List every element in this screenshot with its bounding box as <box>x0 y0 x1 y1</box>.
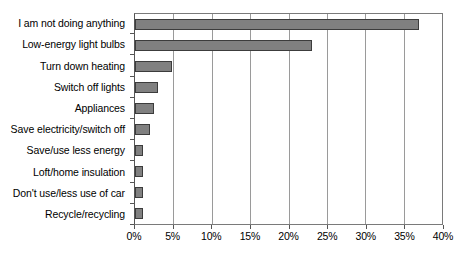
x-axis-tick <box>211 225 212 229</box>
x-axis-tick-label: 25% <box>317 230 337 242</box>
bar-row <box>135 14 442 35</box>
x-axis-tick-label: 0% <box>127 230 142 242</box>
bar <box>135 61 172 72</box>
category-label: Appliances <box>0 98 130 119</box>
bar-chart: I am not doing anythingLow-energy light … <box>0 0 464 263</box>
bar-series <box>135 14 442 224</box>
plot-area <box>134 13 443 225</box>
category-label: Turn down heating <box>0 55 130 76</box>
category-label: Switch off lights <box>0 77 130 98</box>
x-axis-tick <box>289 225 290 229</box>
category-label: Loft/home insulation <box>0 161 130 182</box>
x-axis-tick <box>250 225 251 229</box>
category-label: I am not doing anything <box>0 13 130 34</box>
category-axis-labels: I am not doing anythingLow-energy light … <box>0 13 130 225</box>
x-axis-tick <box>173 225 174 229</box>
x-axis-tick-label: 5% <box>165 230 180 242</box>
bar-row <box>135 77 442 98</box>
category-label: Don't use/less use of car <box>0 183 130 204</box>
bar-row <box>135 119 442 140</box>
category-label: Save/use less energy <box>0 140 130 161</box>
bar-row <box>135 98 442 119</box>
x-axis-tick-label: 40% <box>433 230 453 242</box>
bar-row <box>135 140 442 161</box>
bar <box>135 208 143 219</box>
bar <box>135 103 154 114</box>
x-axis-tick <box>366 225 367 229</box>
bar <box>135 187 143 198</box>
x-axis-tick-label: 35% <box>394 230 414 242</box>
bar-row <box>135 203 442 224</box>
bar-row <box>135 161 442 182</box>
x-axis-tick <box>134 225 135 229</box>
x-axis-labels: 0%5%10%15%20%25%30%35%40% <box>134 230 443 246</box>
bar-row <box>135 35 442 56</box>
bar-row <box>135 56 442 77</box>
bar <box>135 19 419 30</box>
x-axis-tick <box>443 225 444 229</box>
bar <box>135 124 150 135</box>
category-label: Save electricity/switch off <box>0 119 130 140</box>
x-axis-tick-label: 30% <box>356 230 376 242</box>
bar <box>135 166 143 177</box>
bar <box>135 145 143 156</box>
bar-row <box>135 182 442 203</box>
bar <box>135 40 312 51</box>
x-axis-tick-label: 10% <box>201 230 221 242</box>
x-axis-tick <box>404 225 405 229</box>
x-axis-tick-label: 20% <box>278 230 298 242</box>
category-label: Recycle/recycling <box>0 204 130 225</box>
category-label: Low-energy light bulbs <box>0 34 130 55</box>
x-axis-tick <box>327 225 328 229</box>
x-axis-tick-label: 15% <box>240 230 260 242</box>
bar <box>135 82 158 93</box>
